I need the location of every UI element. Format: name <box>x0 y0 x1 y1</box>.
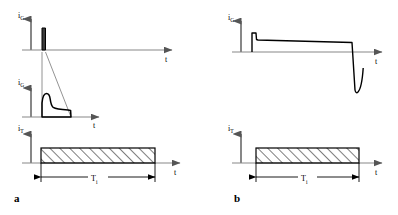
guide-line-right-a <box>46 52 72 117</box>
y-axis-label-b2: iT <box>228 124 234 134</box>
dimension-label-a3: Ti <box>91 174 98 185</box>
on-state-current-block-a3 <box>41 148 155 163</box>
magnification-guides-a <box>42 52 71 117</box>
on-state-current-block-b2 <box>256 148 359 163</box>
plot-a-anode-current: iT t Ti <box>18 124 180 185</box>
waveform-figure: iG t iG t iT t Ti <box>0 0 398 215</box>
gate-pulse-waveform-b1 <box>252 33 363 93</box>
dimension-label-b2: Ti <box>301 174 308 185</box>
y-axis-label-a3: iT <box>18 124 24 134</box>
x-axis-label-b1: t <box>375 57 378 66</box>
panel-label-b: b <box>234 192 240 204</box>
x-axis-label-b2: t <box>375 168 378 177</box>
plot-b-anode-current: iT t Ti <box>228 124 382 185</box>
figure-svg: iG t iG t iT t Ti <box>0 0 398 215</box>
x-axis-label-a2: t <box>93 121 96 130</box>
y-axis-label-b1: iG <box>228 13 234 23</box>
plot-b-gate-overview: iG t <box>228 13 382 93</box>
gate-pulse-spike-a1 <box>42 28 46 50</box>
plot-a-gate-overview: iG t <box>18 11 172 64</box>
y-axis-label-a1: iG <box>18 11 24 21</box>
panel-a: iG t iG t iT t Ti <box>14 11 180 204</box>
x-axis-label-a1: t <box>165 55 168 64</box>
y-axis-label-a2: iG <box>18 78 24 88</box>
x-axis-label-a3: t <box>174 168 177 177</box>
panel-b: iG t iT t Ti b <box>228 13 382 204</box>
panel-label-a: a <box>14 192 20 204</box>
